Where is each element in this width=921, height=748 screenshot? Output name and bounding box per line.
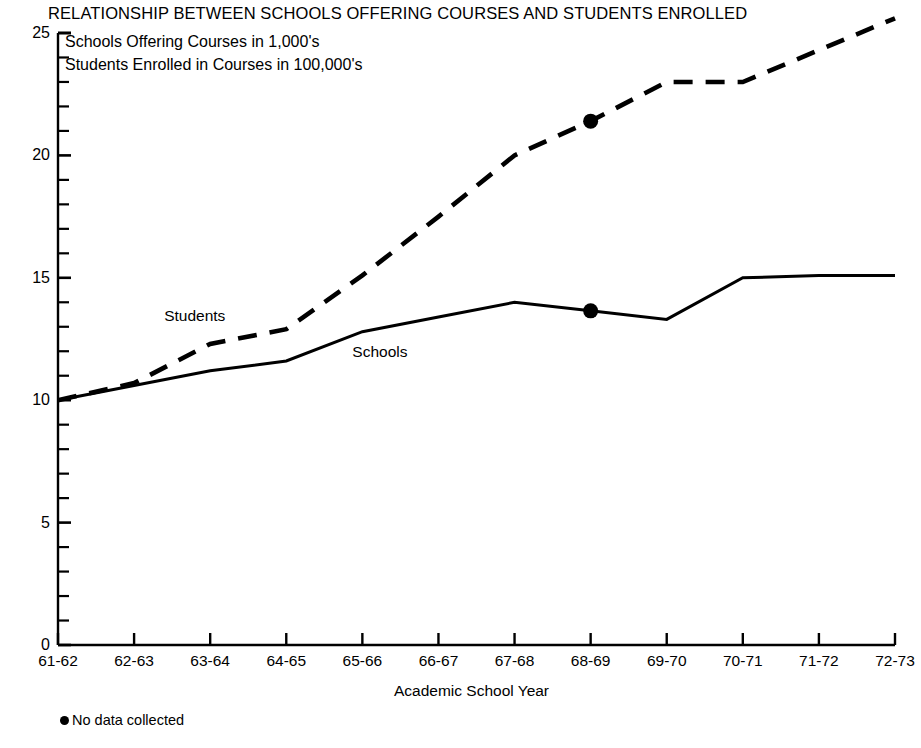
y-tick-label: 20 [10,147,50,163]
y-tick-label: 25 [10,25,50,41]
footnote-label: No data collected [72,712,184,728]
y-tick-label: 0 [10,637,50,653]
y-tick-label: 10 [10,392,50,408]
x-tick-label: 63-64 [172,653,248,669]
footnote-no-data-collected: No data collected [60,712,184,728]
x-axis-title: Academic School Year [0,682,921,700]
x-tick-label: 69-70 [629,653,705,669]
x-tick-label: 64-65 [248,653,324,669]
plot-area [0,0,921,748]
series-line-schools [58,275,895,400]
y-tick-label: 15 [10,270,50,286]
x-tick-label: 66-67 [400,653,476,669]
y-tick-label: 5 [10,515,50,531]
series-label-schools: Schools [352,343,407,361]
chart-figure: RELATIONSHIP BETWEEN SCHOOLS OFFERING CO… [0,0,921,748]
x-tick-label: 71-72 [781,653,857,669]
x-tick-label: 70-71 [705,653,781,669]
x-tick-label: 62-63 [96,653,172,669]
series-label-students: Students [164,307,225,325]
x-tick-label: 61-62 [20,653,96,669]
filled-circle-icon [60,716,69,725]
no-data-marker [583,114,598,129]
x-tick-label: 67-68 [477,653,553,669]
series-line-students [58,18,895,400]
x-tick-label: 72-73 [857,653,921,669]
x-tick-label: 65-66 [324,653,400,669]
no-data-marker [583,303,598,318]
x-tick-label: 68-69 [553,653,629,669]
